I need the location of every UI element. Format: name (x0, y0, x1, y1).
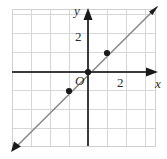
y-axis-label: y (74, 4, 80, 17)
plotted-line (16, 7, 157, 147)
y-axis-group (84, 8, 93, 146)
data-point (85, 69, 91, 75)
graph-figure: y x O 2 2 (0, 0, 167, 159)
origin-label: O (75, 74, 84, 87)
data-point (104, 50, 110, 56)
x-axis-label: x (155, 77, 161, 90)
y-axis-tick-label-2: 2 (75, 30, 82, 43)
data-point (66, 88, 72, 94)
plotted-line-group (11, 6, 158, 152)
x-axis-tick-label-2: 2 (117, 76, 124, 89)
